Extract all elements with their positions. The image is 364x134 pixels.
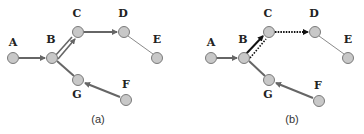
node-a xyxy=(206,53,217,64)
label-d: D xyxy=(118,7,128,20)
edge-g-b xyxy=(57,61,74,76)
label-g: G xyxy=(72,88,81,101)
node-g xyxy=(73,75,84,86)
label-e: E xyxy=(344,33,352,46)
node-c xyxy=(73,27,84,38)
label-a: A xyxy=(8,36,18,49)
caption-a: (a) xyxy=(91,113,104,125)
edge-g-b xyxy=(249,61,265,76)
label-c: C xyxy=(73,7,82,20)
label-c: C xyxy=(264,7,273,20)
node-f xyxy=(121,95,132,106)
panel-a: A B C D E G F (a) xyxy=(8,7,163,125)
node-c xyxy=(264,27,275,38)
node-d xyxy=(119,27,130,38)
edge-f-g xyxy=(276,83,313,98)
node-b xyxy=(47,53,58,64)
label-f: F xyxy=(314,79,322,92)
node-d xyxy=(310,27,321,38)
caption-b: (b) xyxy=(285,113,298,125)
edge-d-e xyxy=(128,36,153,54)
label-g: G xyxy=(263,88,272,101)
label-e: E xyxy=(153,33,161,46)
node-f xyxy=(314,96,325,107)
label-a: A xyxy=(206,36,216,49)
node-a xyxy=(8,53,19,64)
edge-d-e xyxy=(319,36,344,54)
graph-figure: A B C D E G F (a) A B C D E G F xyxy=(0,0,364,134)
label-f: F xyxy=(122,78,130,91)
label-b: B xyxy=(46,33,55,46)
node-e xyxy=(343,53,354,64)
panel-b: A B C D E G F (b) xyxy=(206,7,354,125)
label-b: B xyxy=(238,33,247,46)
edge-b-c-solid xyxy=(246,36,263,54)
node-e xyxy=(152,53,163,64)
node-b xyxy=(239,53,250,64)
edge-f-g xyxy=(85,83,120,97)
node-g xyxy=(264,75,275,86)
label-d: D xyxy=(309,7,319,20)
